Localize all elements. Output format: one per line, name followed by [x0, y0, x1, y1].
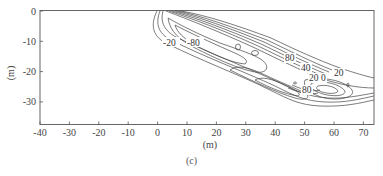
x-tick-label: -30	[63, 127, 76, 138]
plot-frame	[40, 11, 374, 125]
y-tick-labels: 0 -10 -20 -30	[23, 6, 36, 108]
contour-label: 80	[302, 85, 312, 95]
y-tick-label: -10	[23, 36, 36, 47]
contour-label: 0	[321, 73, 326, 83]
x-axis-label: (m)	[203, 139, 217, 151]
contour-label: 20	[309, 73, 319, 83]
x-tick-label: 10	[182, 127, 192, 138]
contour-label: 80	[285, 53, 295, 63]
contour-label: -20	[163, 38, 176, 48]
x-tick-label: 40	[270, 127, 280, 138]
y-tick-label: 0	[31, 6, 36, 17]
x-tick-label: 30	[241, 127, 251, 138]
x-tick-label: -40	[33, 127, 46, 138]
contour-label: -80	[187, 38, 200, 48]
x-tick-label: 20	[211, 127, 221, 138]
contour-label: 20	[334, 68, 344, 78]
x-tick-label: 70	[358, 127, 368, 138]
x-tick-label: 60	[329, 127, 339, 138]
x-tick-label: 50	[300, 127, 310, 138]
y-tick-label: -20	[23, 66, 36, 77]
x-tick-label: -20	[92, 127, 105, 138]
contour-lines	[153, 11, 374, 106]
contour-label: 40	[301, 63, 311, 73]
x-tick-label: -10	[122, 127, 135, 138]
y-axis-label: (m)	[5, 66, 17, 80]
x-tick-label: 0	[155, 127, 160, 138]
y-tick-label: -30	[23, 96, 36, 107]
figure-caption: (c)	[0, 155, 383, 166]
contour-chart: -40 -30 -20 -10 0 10 20 30 40 50 60 70 0…	[0, 0, 383, 176]
x-tick-labels: -40 -30 -20 -10 0 10 20 30 40 50 60 70	[33, 127, 368, 138]
